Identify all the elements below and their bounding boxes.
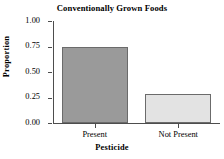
y-axis-tick-mark: [48, 47, 52, 48]
bar-present: [62, 47, 128, 124]
y-axis-tick-mark: [48, 98, 52, 99]
y-axis-tick-label: 0.50: [14, 68, 40, 76]
y-axis-tick-mark: [48, 21, 52, 22]
x-axis-tick-labels: PresentNot Present: [53, 130, 220, 142]
x-axis-tick-label: Present: [82, 130, 107, 140]
x-axis-label: Pesticide: [0, 143, 224, 152]
bar-chart: Conventionally Grown Foods Proportion 0.…: [0, 0, 224, 159]
y-axis-label: Proportion: [2, 27, 11, 87]
x-axis-tick-mark: [178, 124, 179, 128]
x-axis-tick-marks: [53, 124, 220, 129]
x-axis-tick-label: Not Present: [159, 130, 198, 140]
y-axis-tick-mark: [48, 123, 52, 124]
x-axis-tick-mark: [95, 124, 96, 128]
y-axis-tick-label: 0.00: [14, 119, 40, 127]
plot-area: [53, 21, 220, 123]
bar-not-present: [145, 94, 211, 123]
y-axis-tick-label: 0.25: [14, 93, 40, 101]
y-axis-tick-labels: 0.000.250.500.751.00: [14, 0, 40, 159]
y-axis-tick-mark: [48, 72, 52, 73]
y-axis-tick-label: 0.75: [14, 42, 40, 50]
y-axis-tick-label: 1.00: [14, 17, 40, 25]
